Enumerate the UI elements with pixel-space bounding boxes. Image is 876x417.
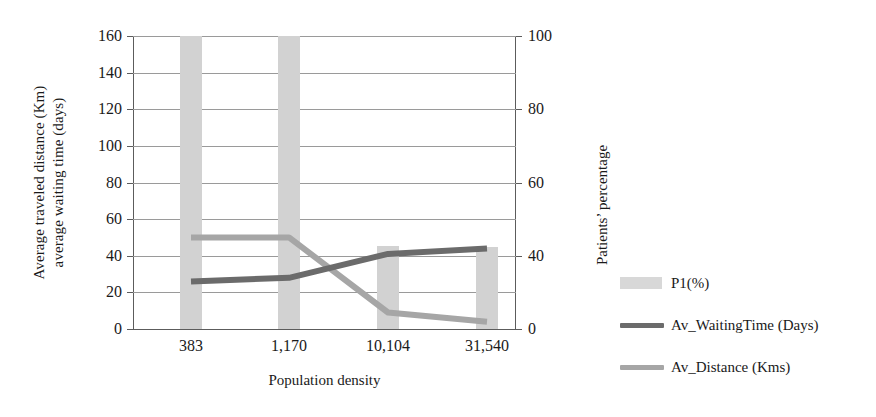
right-tick-60 [516,183,522,184]
legend-swatch-line-waitingtime-icon [620,323,664,328]
left-tick-label-40: 40 [106,247,122,265]
left-tick-label-120: 120 [98,100,122,118]
right-tick-label-40: 40 [528,247,544,265]
line-series-layer [133,36,516,329]
left-axis-title-line2: average waiting time (days) [49,86,68,280]
right-tick-80 [516,109,522,110]
chart-figure: Average traveled distance (Km) average w… [0,0,876,417]
left-tick-label-60: 60 [106,210,122,228]
xtick-label-1: 1,170 [271,337,307,355]
right-tick-100 [516,36,522,37]
legend-item-p1: P1(%) [620,262,870,304]
left-tick-label-100: 100 [98,137,122,155]
left-tick-label-80: 80 [106,174,122,192]
left-tick-label-20: 20 [106,283,122,301]
right-tick-label-0: 0 [528,320,536,338]
left-tick-0 [127,329,133,330]
left-tick-label-0: 0 [114,320,122,338]
right-axis-title: Patients’ percentage [592,100,612,310]
xtick-label-3: 31,540 [465,337,509,355]
legend-label-distance: Av_Distance (Kms) [671,359,790,376]
legend-item-waitingtime: Av_WaitingTime (Days) [620,304,870,346]
xtick-label-0: 383 [179,337,203,355]
legend-swatch-line-distance-icon [620,365,664,370]
left-axis-title-line1: Average traveled distance (Km) [30,86,49,280]
x-axis-title: Population density [133,372,516,389]
legend-item-distance: Av_Distance (Kms) [620,346,870,388]
left-tick-label-160: 160 [98,27,122,45]
right-tick-20-hidden [516,329,522,330]
gridline-0 [133,329,516,330]
left-tick-label-140: 140 [98,64,122,82]
left-axis-title: Average traveled distance (Km) average w… [26,36,72,329]
right-tick-40 [516,256,522,257]
legend-label-p1: P1(%) [671,275,709,292]
right-tick-label-80: 80 [528,100,544,118]
right-tick-label-100: 100 [528,27,552,45]
plot-area: 160 100 140 120 80 100 80 60 60 40 40 20… [133,36,516,329]
xtick-label-2: 10,104 [366,337,410,355]
right-tick-label-60: 60 [528,174,544,192]
legend-label-waitingtime: Av_WaitingTime (Days) [671,317,819,334]
legend-swatch-bar-icon [620,277,662,289]
chart-legend: P1(%) Av_WaitingTime (Days) Av_Distance … [620,262,870,388]
